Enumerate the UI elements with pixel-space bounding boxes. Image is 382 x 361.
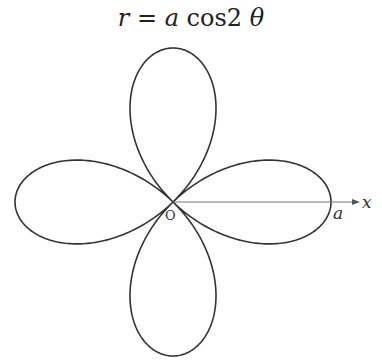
rose-diagram: O a x (0, 0, 382, 361)
x-axis-arrow-icon (352, 199, 360, 205)
x-label: x (362, 192, 372, 212)
origin-label: O (165, 208, 176, 223)
a-label: a (333, 203, 343, 223)
